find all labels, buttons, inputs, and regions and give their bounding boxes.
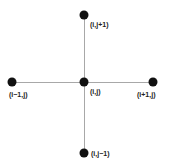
node-right: [149, 78, 158, 87]
node-top: [80, 11, 89, 20]
label-center: (i,j): [90, 88, 101, 95]
node-bottom: [80, 149, 89, 158]
label-bottom: (i,j−1): [91, 150, 109, 157]
node-left: [8, 78, 17, 87]
label-top: (i,j+1): [90, 21, 108, 28]
label-right: (i+1,j): [137, 91, 155, 98]
stencil-diagram: (i,j+1) (i−1,j) (i,j) (i+1,j) (i,j−1): [0, 0, 174, 165]
node-center: [80, 78, 89, 87]
label-left: (i−1,j): [9, 91, 27, 98]
